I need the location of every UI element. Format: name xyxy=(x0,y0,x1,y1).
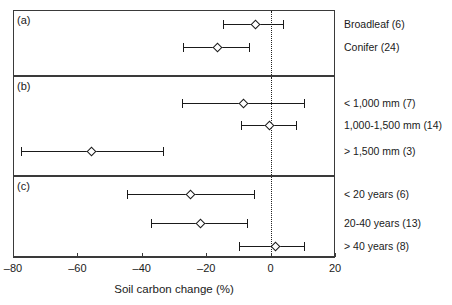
row-label: > 40 years (8) xyxy=(344,240,409,252)
error-bar-cap-low xyxy=(183,43,184,52)
x-axis-tick xyxy=(142,253,143,257)
error-bar-row xyxy=(223,19,285,30)
error-bar-cap-high xyxy=(249,43,250,52)
data-point-marker xyxy=(239,99,249,109)
error-bar-cap-low xyxy=(127,190,128,199)
x-axis-tick xyxy=(77,253,78,257)
x-axis-title: Soil carbon change (%) xyxy=(114,283,234,295)
row-label: > 1,500 mm (3) xyxy=(344,145,416,157)
error-bar-row xyxy=(127,189,255,200)
x-axis-tick-label: 0 xyxy=(268,262,274,274)
x-axis-tick xyxy=(335,253,336,257)
row-label: Broadleaf (6) xyxy=(344,18,405,30)
error-bar-cap-low xyxy=(239,242,240,251)
error-bar-row xyxy=(182,98,305,109)
row-label: 20-40 years (13) xyxy=(344,217,421,229)
data-point-marker xyxy=(195,219,205,229)
error-bar-cap-low xyxy=(182,99,183,108)
x-axis-tick-label: 20 xyxy=(329,262,341,274)
data-point-marker xyxy=(270,242,280,252)
error-bar-row xyxy=(241,120,297,131)
row-label: < 20 years (6) xyxy=(344,188,409,200)
error-bar-row xyxy=(151,218,248,229)
error-bar-cap-low xyxy=(21,147,22,156)
x-axis-tick xyxy=(271,253,272,257)
data-point-marker xyxy=(265,121,275,131)
panel-a-box xyxy=(13,10,335,76)
error-bar-cap-low xyxy=(241,121,242,130)
error-bar-row xyxy=(21,146,164,157)
x-axis-line xyxy=(13,257,335,258)
x-axis-tick xyxy=(13,253,14,257)
error-bar-cap-high xyxy=(247,219,248,228)
row-label: Conifer (24) xyxy=(344,41,399,53)
error-bar-cap-high xyxy=(254,190,255,199)
panel-letter-a: (a) xyxy=(17,14,30,26)
error-bar-cap-high xyxy=(296,121,297,130)
row-label: < 1,000 mm (7) xyxy=(344,97,416,109)
forest-plot-chart: (a)Broadleaf (6)Conifer (24)(b)< 1,000 m… xyxy=(0,0,452,305)
panel-letter-b: (b) xyxy=(17,80,30,92)
error-bar-cap-high xyxy=(304,242,305,251)
panel-letter-c: (c) xyxy=(17,180,30,192)
data-point-marker xyxy=(185,190,195,200)
x-axis-tick-label: –20 xyxy=(197,262,215,274)
error-bar-cap-high xyxy=(283,20,284,29)
error-bar-cap-low xyxy=(223,20,224,29)
error-bar-cap-high xyxy=(163,147,164,156)
x-axis-tick-label: –40 xyxy=(133,262,151,274)
error-bar-cap-high xyxy=(304,99,305,108)
error-bar-row xyxy=(239,241,305,252)
x-axis-tick-label: –80 xyxy=(4,262,22,274)
error-bar-cap-low xyxy=(151,219,152,228)
data-point-marker xyxy=(212,43,222,53)
error-bar-row xyxy=(183,42,249,53)
data-point-marker xyxy=(251,20,261,30)
x-axis-tick-label: –60 xyxy=(68,262,86,274)
data-point-marker xyxy=(86,147,96,157)
row-label: 1,000-1,500 mm (14) xyxy=(344,119,442,131)
x-axis-tick xyxy=(206,253,207,257)
